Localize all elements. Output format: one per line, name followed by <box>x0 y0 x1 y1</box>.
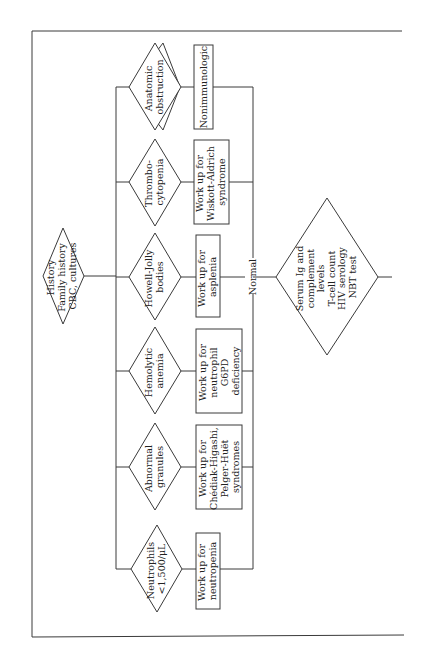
svg-text:Neutrophils <1,500/μL: Neutrophils <1,500/μL <box>145 539 167 599</box>
svg-text:Thrombo- cytopenia: Thrombo- cytopenia <box>143 157 165 207</box>
action-line: Work up for <box>194 154 205 212</box>
start-line-1: History <box>45 259 56 295</box>
action-line: deficiency <box>230 346 241 395</box>
branch-anatomic-obstruction: Anatomic obstruction Nonimmunologic <box>116 43 253 130</box>
action-line: Work up for <box>197 439 208 497</box>
condition-line: anemia <box>154 353 165 388</box>
action-line: syndrome <box>216 158 227 206</box>
end-line-1: Serum Ig and <box>294 246 305 312</box>
branch-howell-jolly-bodies: Howell-Jolly bodies Work up for asplenia <box>116 233 245 320</box>
condition-line: Howell-Jolly <box>143 249 154 308</box>
action-line: G6PD <box>219 358 230 386</box>
branch-neutrophils-low: Neutrophils <1,500/μL Work up for neutro… <box>116 525 253 612</box>
branch-abnormal-granules: Abnormal granules Work up for Chédiak-Hi… <box>116 423 253 510</box>
action-line: asplenia <box>207 257 218 297</box>
start-node-history: History Family history CBC, cultures <box>43 228 116 324</box>
action-line: Chédiak-Higashi, <box>208 427 219 510</box>
condition-line: Anatomic <box>143 66 154 113</box>
action-line: syndromes <box>230 441 241 493</box>
condition-line: Abnormal <box>143 445 154 493</box>
end-node-serum-tests: Serum Ig and complement levels T-cell co… <box>276 198 392 355</box>
condition-line: Hemolytic <box>143 348 154 397</box>
end-line-4: T-cell count <box>326 251 337 307</box>
svg-text:Abnormal granules: Abnormal granules <box>143 442 165 493</box>
svg-text:Work up for neutropenia: Work up for neutropenia <box>196 541 218 601</box>
end-line-5: HIV serology <box>336 246 347 310</box>
action-line: Work up for <box>196 249 207 307</box>
condition-line: Neutrophils <box>145 542 156 599</box>
action-line: Work up for <box>196 543 207 601</box>
action-line: neutropenia <box>207 541 218 600</box>
action-line: Wiskott-Aldrich <box>205 146 216 221</box>
svg-text:Nonimmunologic: Nonimmunologic <box>198 46 209 128</box>
svg-text:Anatomic obstruction: Anatomic obstruction <box>143 59 165 114</box>
branch-thrombocytopenia: Thrombo- cytopenia Work up for Wiskott-A… <box>116 139 253 226</box>
svg-text:History Family history: History Family history CBC, cultures <box>45 240 78 312</box>
condition-line: obstruction <box>154 59 165 114</box>
branch-hemolytic-anemia: Hemolytic anemia Work up for neutrophil … <box>116 327 253 414</box>
condition-line: bodies <box>154 261 165 293</box>
action-line: Pelger-Huët <box>219 439 230 497</box>
action-line: Nonimmunologic <box>198 46 209 128</box>
end-line-3: levels <box>315 265 326 293</box>
action-line: neutrophil <box>208 347 219 397</box>
start-line-3: CBC, cultures <box>67 242 78 309</box>
start-line-2: Family history <box>56 243 67 312</box>
flowchart-diagram: History Family history CBC, cultures Ana… <box>0 0 425 665</box>
condition-line: granules <box>154 446 165 488</box>
condition-line: <1,500/μL <box>156 543 167 595</box>
action-line: Work up for <box>197 343 208 401</box>
condition-line: cytopenia <box>154 158 165 205</box>
end-line-6: NBT test <box>347 255 358 298</box>
merge-normal: Normal <box>247 258 276 295</box>
condition-line: Thrombo- <box>143 160 154 207</box>
end-line-2: complement <box>305 249 316 309</box>
